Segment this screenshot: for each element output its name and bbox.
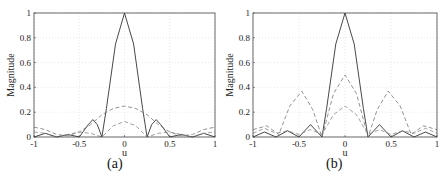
y-tick-label: 0.6	[20, 58, 32, 68]
x-axis-label: u	[343, 147, 348, 158]
y-tick-label: 0.2	[20, 107, 31, 117]
x-tick-label: -1	[30, 139, 38, 149]
chart-panel-a: -1-0.500.5100.20.40.60.81uMagnitude (a)	[0, 0, 224, 181]
y-tick-label: 0	[27, 132, 32, 142]
x-tick-label: 0.5	[385, 139, 397, 149]
chart-a-svg: -1-0.500.5100.20.40.60.81uMagnitude	[0, 0, 224, 181]
caption-b: (b)	[326, 156, 342, 172]
chart-b-svg: -1-0.500.5100.20.40.60.81uMagnitude	[224, 0, 447, 181]
y-tick-label: 0.8	[20, 33, 32, 43]
y-tick-label: 0	[246, 132, 251, 142]
y-tick-label: 0.4	[20, 82, 32, 92]
y-tick-label: 1	[27, 8, 32, 18]
x-tick-label: -0.5	[292, 139, 307, 149]
y-tick-label: 0.2	[239, 107, 250, 117]
series-dashed-upper	[34, 106, 215, 136]
x-tick-label: 1	[213, 139, 218, 149]
x-tick-label: -0.5	[72, 139, 87, 149]
x-tick-label: -1	[249, 139, 257, 149]
y-tick-label: 0.4	[239, 82, 251, 92]
caption-a: (a)	[107, 156, 123, 172]
y-tick-label: 1	[246, 8, 251, 18]
grid	[34, 13, 215, 137]
y-tick-label: 0.6	[239, 58, 251, 68]
x-tick-label: 1	[435, 139, 440, 149]
x-tick-label: 0.5	[164, 139, 176, 149]
y-tick-label: 0.8	[239, 33, 251, 43]
y-axis-label: Magnitude	[224, 53, 235, 97]
y-axis-label: Magnitude	[5, 53, 16, 97]
chart-panel-b: -1-0.500.5100.20.40.60.81uMagnitude (b)	[224, 0, 447, 181]
